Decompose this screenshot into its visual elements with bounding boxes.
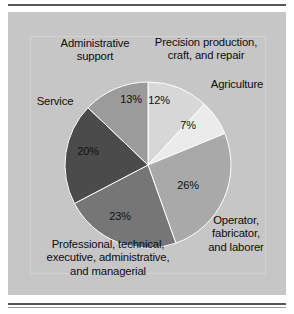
slice-percent-operator: 26% [171,179,205,191]
figure-container: 12% 7% 26% 23% 20% 13% Precision product… [0,0,294,314]
top-rule [8,4,286,6]
chart-panel: 12% 7% 26% 23% 20% 13% Precision product… [8,12,286,295]
category-label-professional-technical: Professional, technical, executive, admi… [18,238,198,278]
slice-percent-agriculture: 7% [174,119,202,131]
slice-percent-service: 20% [71,145,105,157]
bottom-rule [8,303,286,305]
category-label-agriculture: Agriculture [194,78,280,91]
category-label-administrative-support: Administrative support [42,37,148,64]
slice-percent-professional: 23% [103,210,137,222]
bottom-rule-thin [8,307,286,308]
category-label-service: Service [16,95,94,108]
category-label-precision-production: Precision production, craft, and repair [136,36,276,63]
category-label-operator-fabricator: Operator, fabricator, and laborer [192,214,280,254]
slice-percent-administrative-support: 13% [114,93,148,105]
